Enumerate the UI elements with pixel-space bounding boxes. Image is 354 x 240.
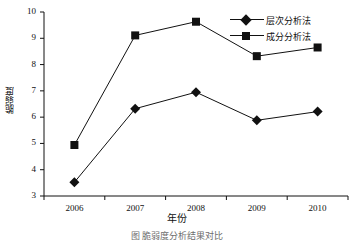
chart-figure: 脆弱度 年份 345678910 20062007200820092010 层次… — [0, 0, 354, 240]
y-axis-title: 脆弱度 — [4, 78, 18, 124]
chart-legend: 层次分析法 成分分析法 — [230, 12, 350, 44]
legend-label-series-1: 层次分析法 — [266, 14, 311, 27]
y-tick-label: 3 — [20, 190, 36, 200]
data-point-diamond-2008[interactable] — [191, 87, 201, 97]
x-tick-label: 2006 — [52, 203, 96, 213]
y-tick-label: 6 — [20, 111, 36, 121]
data-point-square-2007[interactable] — [131, 31, 139, 39]
y-tick-label: 9 — [20, 32, 36, 42]
x-tick-label: 2010 — [296, 203, 340, 213]
x-tick-label: 2007 — [113, 203, 157, 213]
legend-label-series-2: 成分分析法 — [266, 30, 311, 43]
y-axis-ticks — [40, 12, 44, 196]
data-point-square-2008[interactable] — [192, 18, 200, 26]
y-tick-label: 8 — [20, 59, 36, 69]
y-tick-label: 10 — [20, 6, 36, 16]
series-line-1 — [74, 92, 317, 182]
y-tick-label: 7 — [20, 85, 36, 95]
x-axis-ticks — [44, 196, 348, 200]
figure-caption: 图 脆弱度分析结果对比 — [0, 229, 354, 240]
legend-item-series-2[interactable]: 成分分析法 — [230, 28, 350, 44]
diamond-marker-icon — [230, 14, 264, 26]
x-tick-label: 2008 — [174, 203, 218, 213]
data-point-diamond-2010[interactable] — [313, 107, 323, 117]
data-point-diamond-2009[interactable] — [252, 115, 262, 125]
y-tick-label: 5 — [20, 137, 36, 147]
square-marker-icon — [230, 30, 264, 42]
data-point-square-2009[interactable] — [253, 52, 261, 60]
data-point-square-2006[interactable] — [70, 141, 78, 149]
data-point-square-2010[interactable] — [314, 43, 322, 51]
y-tick-label: 4 — [20, 164, 36, 174]
legend-item-series-1[interactable]: 层次分析法 — [230, 12, 350, 28]
x-tick-label: 2009 — [235, 203, 279, 213]
